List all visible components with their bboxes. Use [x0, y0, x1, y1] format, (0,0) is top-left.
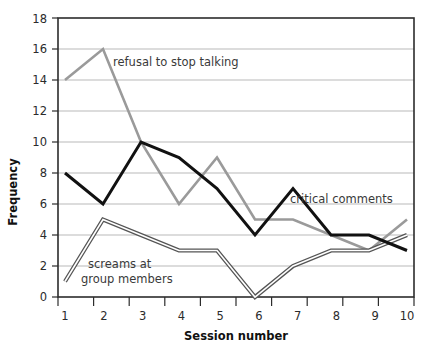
y-axis-title: Frequency: [6, 158, 20, 226]
y-tick-18: 18: [32, 12, 47, 26]
x-tick-9: 9: [372, 309, 379, 323]
x-tick-6: 6: [255, 309, 262, 323]
y-tick-10: 10: [32, 135, 47, 149]
annotation-refusal-to-stop-talking: refusal to stop talking: [113, 55, 239, 69]
x-tick-8: 8: [333, 309, 340, 323]
line-chart: 0 2 4 6 8 10 12 14 16 18 1: [0, 0, 437, 347]
y-tick-0: 0: [40, 290, 47, 304]
x-tick-10: 10: [400, 309, 415, 323]
x-tick-4: 4: [178, 309, 185, 323]
x-axis-ticks: [58, 297, 414, 306]
x-tick-3: 3: [139, 309, 146, 323]
y-axis-ticks: [52, 18, 58, 297]
chart-svg: 0 2 4 6 8 10 12 14 16 18 1: [0, 0, 437, 347]
y-tick-4: 4: [40, 228, 47, 242]
x-tick-2: 2: [100, 309, 107, 323]
x-axis-title: Session number: [184, 329, 288, 343]
y-tick-12: 12: [32, 104, 47, 118]
annotation-screams-line2: group members: [81, 272, 173, 286]
y-tick-2: 2: [40, 259, 47, 273]
x-tick-7: 7: [294, 309, 301, 323]
y-tick-14: 14: [32, 73, 47, 87]
y-tick-6: 6: [40, 197, 47, 211]
x-tick-1: 1: [61, 309, 68, 323]
y-tick-8: 8: [40, 166, 47, 180]
x-tick-5: 5: [216, 309, 223, 323]
y-tick-labels: 0 2 4 6 8 10 12 14 16 18: [32, 12, 47, 304]
annotation-screams-line1: screams at: [88, 257, 152, 271]
x-tick-labels: 1 2 3 4 5 6 7 8 9 10: [61, 309, 414, 323]
y-tick-16: 16: [32, 42, 47, 56]
annotation-critical-comments: critical comments: [290, 192, 393, 206]
